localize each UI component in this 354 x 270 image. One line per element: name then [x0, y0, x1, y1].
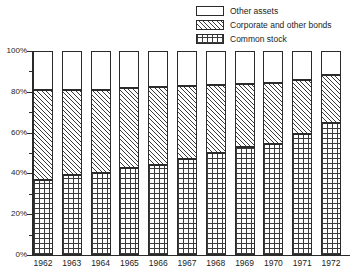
bar-1964[interactable] [91, 51, 111, 255]
bar-segment-1969-common-stock[interactable] [235, 147, 255, 255]
bar-segment-1970-common-stock[interactable] [263, 144, 283, 255]
bar-segment-1964-common-stock[interactable] [91, 173, 111, 255]
bar-1965[interactable] [119, 51, 139, 255]
bar-segment-1970-corporate-and-other-bonds[interactable] [263, 83, 283, 144]
x-tick-label-1972: 1972 [314, 258, 348, 268]
bar-segment-1962-corporate-and-other-bonds[interactable] [33, 90, 53, 180]
bar-1966[interactable] [148, 51, 168, 255]
bar-segment-1966-common-stock[interactable] [148, 165, 168, 255]
y-tick-minor-70 [29, 112, 32, 113]
y-tick-40 [27, 173, 32, 174]
bar-segment-1970-other-assets[interactable] [263, 51, 283, 83]
bar-1971[interactable] [292, 51, 312, 255]
y-tick-label-20: 20% [11, 210, 27, 218]
bar-segment-1972-common-stock[interactable] [321, 123, 341, 255]
bar-segment-1967-corporate-and-other-bonds[interactable] [177, 86, 197, 159]
bar-segment-1962-other-assets[interactable] [33, 51, 53, 90]
y-tick-20 [27, 214, 32, 215]
x-axis-line [32, 255, 350, 256]
bar-1962[interactable] [33, 51, 53, 255]
bar-segment-1967-common-stock[interactable] [177, 159, 197, 255]
y-tick-label-80: 80% [11, 88, 27, 96]
bar-segment-1971-common-stock[interactable] [292, 134, 312, 255]
bar-segment-1968-common-stock[interactable] [206, 153, 226, 255]
bar-segment-1963-other-assets[interactable] [62, 51, 82, 90]
bar-segment-1968-corporate-and-other-bonds[interactable] [206, 85, 226, 153]
y-tick-60 [27, 133, 32, 134]
bar-segment-1969-other-assets[interactable] [235, 51, 255, 84]
y-tick-minor-30 [29, 194, 32, 195]
y-tick-100 [27, 51, 32, 52]
bar-segment-1971-corporate-and-other-bonds[interactable] [292, 80, 312, 134]
y-tick-label-60: 60% [11, 129, 27, 137]
bar-segment-1965-other-assets[interactable] [119, 51, 139, 88]
y-tick-minor-50 [29, 153, 32, 154]
bar-segment-1968-other-assets[interactable] [206, 51, 226, 85]
bar-segment-1964-corporate-and-other-bonds[interactable] [91, 90, 111, 174]
y-tick-minor-90 [29, 71, 32, 72]
bar-segment-1969-corporate-and-other-bonds[interactable] [235, 84, 255, 147]
bar-segment-1963-common-stock[interactable] [62, 175, 82, 255]
bar-segment-1966-other-assets[interactable] [148, 51, 168, 87]
bar-1963[interactable] [62, 51, 82, 255]
bar-segment-1972-other-assets[interactable] [321, 51, 341, 75]
bar-segment-1962-common-stock[interactable] [33, 180, 53, 255]
bar-1972[interactable] [321, 51, 341, 255]
bar-segment-1963-corporate-and-other-bonds[interactable] [62, 90, 82, 176]
bar-segment-1967-other-assets[interactable] [177, 51, 197, 86]
y-tick-label-100: 100% [7, 47, 27, 55]
y-tick-0 [27, 255, 32, 256]
plot-area: 0%20%40%60%80%100% 196219631964196519661… [0, 0, 354, 270]
bar-1970[interactable] [263, 51, 283, 255]
bar-segment-1965-corporate-and-other-bonds[interactable] [119, 88, 139, 169]
bar-1967[interactable] [177, 51, 197, 255]
y-tick-minor-10 [29, 235, 32, 236]
bar-segment-1965-common-stock[interactable] [119, 168, 139, 255]
y-tick-80 [27, 92, 32, 93]
y-tick-label-40: 40% [11, 169, 27, 177]
bar-segment-1964-other-assets[interactable] [91, 51, 111, 90]
bar-segment-1971-other-assets[interactable] [292, 51, 312, 80]
bar-segment-1972-corporate-and-other-bonds[interactable] [321, 75, 341, 123]
bar-segment-1966-corporate-and-other-bonds[interactable] [148, 87, 168, 166]
bar-1968[interactable] [206, 51, 226, 255]
chart-container: Other assets Corporate and other bonds C… [0, 0, 354, 270]
bar-1969[interactable] [235, 51, 255, 255]
